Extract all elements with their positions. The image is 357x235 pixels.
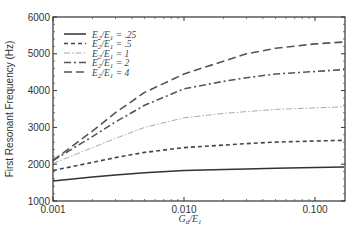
y-tick-label: 6000 — [28, 12, 51, 23]
x-axis-label: Gd/E1 — [178, 213, 201, 226]
resonant-frequency-chart: 1000200030004000500060000.0010.0100.100 … — [0, 0, 357, 235]
y-tick-label: 3000 — [28, 122, 51, 133]
legend: E2/E1 = .25E2/E1 = .5E2/E1 = 1E2/E1 = 2E… — [64, 30, 137, 80]
y-tick-label: 5000 — [28, 48, 51, 59]
x-tick-label: 0.001 — [40, 204, 65, 215]
series-line-0 — [53, 167, 344, 181]
y-tick-label: 4000 — [28, 85, 51, 96]
y-tick-label: 2000 — [28, 159, 51, 170]
y-axis-label: First Resonant Frequency (Hz) — [4, 41, 15, 178]
axes: 1000200030004000500060000.0010.0100.100 — [28, 12, 345, 216]
series-line-2 — [53, 107, 344, 164]
series-line-1 — [53, 140, 344, 170]
x-tick-label: 0.100 — [302, 204, 327, 215]
